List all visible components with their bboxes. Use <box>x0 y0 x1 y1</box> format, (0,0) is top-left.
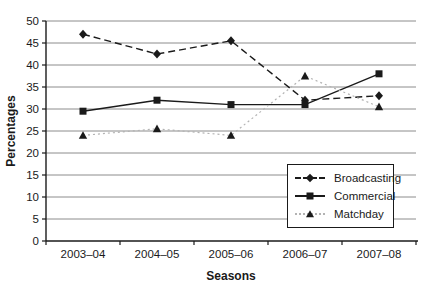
legend-label: Broadcasting <box>334 172 401 184</box>
y-tick-label: 10 <box>26 191 39 203</box>
y-tick-label: 50 <box>26 15 39 27</box>
x-tick-label: 2003–04 <box>61 248 106 260</box>
diamond-marker-icon <box>306 174 314 182</box>
x-tick-label: 2006–07 <box>283 248 328 260</box>
commercial-data-point <box>154 97 161 104</box>
y-tick-label: 15 <box>26 169 39 181</box>
legend-item-commercial: Commercial <box>288 187 393 205</box>
y-tick-label: 45 <box>26 37 39 49</box>
legend-line-sample <box>295 195 325 197</box>
revenue-percentages-line-chart: 051015202530354045502003–042004–052005–0… <box>0 0 422 293</box>
x-axis-title: Seasons <box>206 269 255 283</box>
commercial-data-point <box>80 108 87 115</box>
y-tick-label: 0 <box>33 235 39 247</box>
broadcasting-data-point <box>153 50 161 59</box>
commercial-data-point <box>302 101 309 108</box>
x-tick-label: 2007–08 <box>357 248 402 260</box>
line-chart-svg: 051015202530354045502003–042004–052005–0… <box>0 0 422 293</box>
matchday-data-point <box>375 103 383 111</box>
legend-label: Commercial <box>334 190 395 202</box>
y-tick-label: 25 <box>26 125 39 137</box>
legend-line-sample <box>295 177 325 179</box>
x-tick-label: 2005–06 <box>209 248 254 260</box>
legend-item-broadcasting: Broadcasting <box>288 169 393 187</box>
y-tick-label: 20 <box>26 147 39 159</box>
broadcasting-data-point <box>375 91 383 100</box>
commercial-data-point <box>376 70 383 77</box>
commercial-data-point <box>228 101 235 108</box>
broadcasting-data-point <box>227 36 235 45</box>
matchday-data-point <box>79 131 87 139</box>
legend-line-sample <box>295 213 325 215</box>
legend-item-matchday: Matchday <box>288 205 393 223</box>
matchday-data-point <box>153 125 161 133</box>
matchday-data-point <box>301 72 309 80</box>
square-marker-icon <box>307 193 314 200</box>
triangle-marker-icon <box>306 210 314 217</box>
x-tick-label: 2004–05 <box>135 248 180 260</box>
legend: Broadcasting Commercial Matchday <box>287 164 394 228</box>
y-tick-label: 35 <box>26 81 39 93</box>
y-tick-label: 5 <box>33 213 39 225</box>
legend-label: Matchday <box>334 208 384 220</box>
broadcasting-data-point <box>79 30 87 39</box>
y-axis-title: Percentages <box>4 95 18 166</box>
y-tick-label: 40 <box>26 59 39 71</box>
y-tick-label: 30 <box>26 103 39 115</box>
